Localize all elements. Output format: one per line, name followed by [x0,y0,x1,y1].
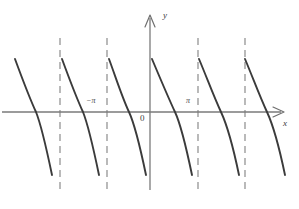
tick-label-pi: π [186,96,190,105]
cotangent-branch-2 [62,59,99,175]
cotangent-branch-6 [245,59,285,175]
cotangent-graph-figure: y x −π π 0 [0,0,299,209]
tick-label-neg-pi: −π [86,96,95,105]
y-axis-label: y [163,10,167,20]
x-axis-label: x [283,118,287,128]
cotangent-branch-5 [199,59,239,175]
plot-canvas [0,0,299,209]
cotangent-branch-4 [152,59,192,175]
cotangent-branch-1 [15,59,52,175]
origin-label: 0 [140,113,145,123]
